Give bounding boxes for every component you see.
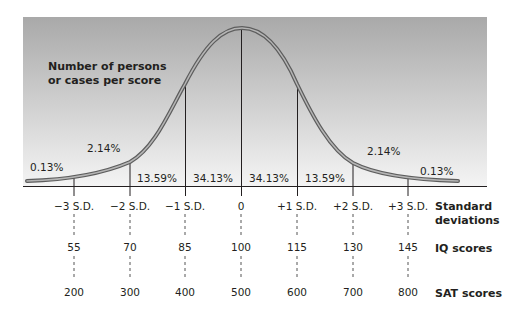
sd-tick-labels: −3 S.D. −2 S.D. −1 S.D. 0 +1 S.D. +2 S.D… xyxy=(54,200,428,212)
svg-text:2.14%: 2.14% xyxy=(87,142,120,154)
sat-tick-labels: 200 300 400 500 600 700 800 xyxy=(64,286,418,298)
svg-text:115: 115 xyxy=(287,241,307,253)
svg-text:300: 300 xyxy=(120,286,140,298)
svg-text:100: 100 xyxy=(231,241,251,253)
svg-text:−2 S.D.: −2 S.D. xyxy=(110,200,150,212)
svg-text:0: 0 xyxy=(238,200,245,212)
svg-text:Standard: Standard xyxy=(435,200,492,213)
svg-text:34.13%: 34.13% xyxy=(249,172,289,184)
svg-text:2.14%: 2.14% xyxy=(367,145,400,157)
svg-text:130: 130 xyxy=(343,241,363,253)
svg-text:Number of persons: Number of persons xyxy=(48,60,167,73)
svg-text:600: 600 xyxy=(287,286,307,298)
svg-text:70: 70 xyxy=(123,241,136,253)
svg-text:0.13%: 0.13% xyxy=(30,161,63,173)
svg-text:200: 200 xyxy=(64,286,84,298)
iq-tick-labels: 55 70 85 100 115 130 145 xyxy=(67,241,418,253)
svg-text:34.13%: 34.13% xyxy=(193,172,233,184)
svg-text:+2 S.D.: +2 S.D. xyxy=(333,200,373,212)
plot-background xyxy=(23,17,487,186)
sat-axis-name: SAT scores xyxy=(435,287,502,300)
svg-text:deviations: deviations xyxy=(435,214,500,227)
svg-text:0.13%: 0.13% xyxy=(420,165,453,177)
svg-text:+1 S.D.: +1 S.D. xyxy=(277,200,317,212)
svg-text:800: 800 xyxy=(398,286,418,298)
svg-text:or cases per score: or cases per score xyxy=(48,74,161,87)
svg-text:85: 85 xyxy=(178,241,191,253)
normal-distribution-chart: Number of persons or cases per score 0.1… xyxy=(0,0,510,312)
svg-text:145: 145 xyxy=(398,241,418,253)
svg-text:−1 S.D.: −1 S.D. xyxy=(165,200,205,212)
svg-text:500: 500 xyxy=(231,286,251,298)
svg-text:13.59%: 13.59% xyxy=(137,172,177,184)
svg-text:+3 S.D.: +3 S.D. xyxy=(388,200,428,212)
sd-axis-name: Standard deviations xyxy=(435,200,500,227)
svg-text:700: 700 xyxy=(343,286,363,298)
svg-text:400: 400 xyxy=(175,286,195,298)
svg-text:13.59%: 13.59% xyxy=(305,172,345,184)
svg-text:55: 55 xyxy=(67,241,80,253)
svg-text:−3 S.D.: −3 S.D. xyxy=(54,200,94,212)
y-axis-label: Number of persons or cases per score xyxy=(48,60,167,87)
iq-axis-name: IQ scores xyxy=(435,242,493,255)
